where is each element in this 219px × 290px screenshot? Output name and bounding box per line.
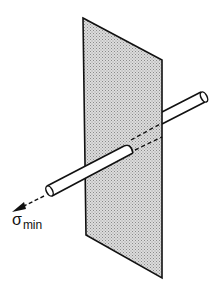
sigma-subscript: min	[23, 218, 42, 232]
sigma-min-label: σmin	[12, 212, 42, 228]
fracture-plane-diagram	[0, 0, 219, 290]
sigma-symbol: σ	[12, 211, 22, 228]
rod-back-segment	[162, 91, 209, 124]
sigma-min-arrow	[12, 196, 44, 212]
